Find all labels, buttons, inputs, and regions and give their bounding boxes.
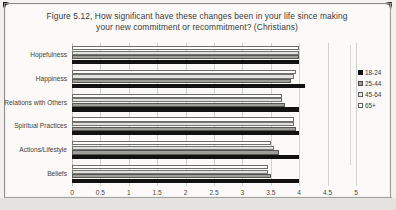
x-tick-label: 4: [297, 189, 301, 196]
bar-group: Hopefulness: [72, 43, 356, 67]
legend-divider: [350, 45, 351, 165]
bar: [72, 51, 299, 55]
bar: [72, 107, 299, 111]
bar: [72, 179, 299, 183]
legend-label: 45-64: [365, 91, 381, 98]
bar: [72, 141, 271, 145]
legend-label: 18-24: [365, 69, 381, 76]
bar: [72, 155, 299, 159]
bar: [72, 46, 299, 50]
legend-item[interactable]: 45-64: [358, 89, 396, 100]
x-tick-label: 2.5: [209, 189, 218, 196]
bar: [72, 79, 291, 83]
bar: [72, 55, 299, 59]
page-border-top: [4, 3, 392, 4]
bar: [72, 98, 282, 102]
x-tick-label: 0.5: [96, 189, 105, 196]
bar: [72, 70, 296, 74]
x-tick-label: 4.5: [323, 189, 332, 196]
plot-area: 00.511.522.533.544.55 HopefulnessHappine…: [72, 43, 356, 191]
chart-figure: Figure 5.12, How significant have these …: [6, 5, 389, 196]
bar-group: Happiness: [72, 67, 356, 91]
bar: [72, 122, 294, 126]
bar-group: Actions/Lifestyle: [72, 138, 356, 162]
legend-swatch-icon: [358, 81, 363, 86]
legend-label: 65+: [365, 102, 376, 109]
category-label: Relations with Others: [4, 99, 67, 106]
category-label: Actions/Lifestyle: [19, 146, 67, 153]
gridline: [356, 43, 357, 186]
page-margin-bottom: [0, 198, 396, 210]
chart-title-line-2: your new commitment or recommitment? (Ch…: [32, 22, 362, 33]
bar-group: Spiritual Practices: [72, 115, 356, 139]
bar: [72, 60, 299, 64]
legend-item[interactable]: 18-24: [358, 67, 396, 78]
legend-swatch-icon: [358, 70, 363, 75]
legend-swatch-icon: [358, 92, 363, 97]
category-label: Happiness: [36, 75, 67, 82]
chart-title: Figure 5.12, How significant have these …: [32, 11, 362, 33]
bar: [72, 170, 268, 174]
bar: [72, 74, 294, 78]
x-tick-label: 3.5: [266, 189, 275, 196]
category-label: Beliefs: [47, 170, 67, 177]
bar: [72, 94, 282, 98]
x-tick-label: 3: [241, 189, 245, 196]
x-tick-label: 5: [354, 189, 358, 196]
bar: [72, 103, 285, 107]
legend-item[interactable]: 65+: [358, 100, 396, 111]
bar: [72, 165, 268, 169]
x-tick-label: 2: [184, 189, 188, 196]
bar: [72, 127, 296, 131]
chart-legend: 18-2425-4445-6465+: [358, 67, 396, 111]
x-tick-label: 0: [70, 189, 74, 196]
category-label: Spiritual Practices: [14, 122, 67, 129]
legend-item[interactable]: 25-44: [358, 78, 396, 89]
category-label: Hopefulness: [30, 51, 67, 58]
legend-label: 25-44: [365, 80, 381, 87]
bar: [72, 150, 279, 154]
bar: [72, 146, 274, 150]
bar: [72, 131, 299, 135]
bar: [72, 117, 294, 121]
bar: [72, 84, 305, 88]
legend-swatch-icon: [358, 103, 363, 108]
bar-group: Beliefs: [72, 162, 356, 186]
bar-group: Relations with Others: [72, 91, 356, 115]
chart-title-line-1: Figure 5.12, How significant have these …: [32, 11, 362, 22]
x-tick-label: 1: [127, 189, 131, 196]
scanned-page: Figure 5.12, How significant have these …: [0, 0, 396, 210]
x-tick-label: 1.5: [153, 189, 162, 196]
bar: [72, 174, 271, 178]
